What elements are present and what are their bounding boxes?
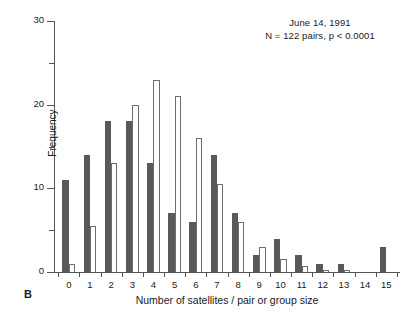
x-axis-title: Number of satellites / pair or group siz… [54,294,400,306]
x-tick-label-15: 15 [374,279,398,290]
x-tick-0 [58,272,59,277]
bar-expected-9 [259,247,265,272]
bar-expected-12 [323,270,329,273]
y-tick-label-0: 0 [18,265,44,276]
x-tick-4 [143,272,144,277]
x-tick-14 [355,272,356,277]
bar-expected-11 [302,266,308,272]
y-tick-15 [49,147,55,148]
figure-panel-b: June 14, 1991 N = 122 pairs, p < 0.0001 … [0,0,419,319]
x-tick-12 [312,272,313,277]
panel-label: B [24,288,32,300]
x-tick-1 [79,272,80,277]
y-tick-10 [47,188,55,189]
bar-expected-2 [111,163,117,272]
bar-expected-10 [280,259,286,272]
plot-area: Frequency 01020300123456789101112131415 [54,21,400,272]
y-tick-20 [47,105,55,106]
x-tick-2 [101,272,102,277]
y-tick-label-20: 20 [18,98,44,109]
x-tick-5 [164,272,165,277]
y-axis-title: Frequency [47,109,58,156]
x-tick-minor-15 [397,272,398,277]
x-tick-8 [228,272,229,277]
bar-observed-0 [62,180,68,272]
x-tick-6 [185,272,186,277]
bar-observed-15 [380,247,386,272]
bar-expected-8 [238,222,244,272]
y-tick-label-30: 30 [18,14,44,25]
y-tick-30 [47,21,55,22]
bar-expected-6 [196,138,202,272]
bar-expected-7 [217,184,223,272]
x-tick-3 [122,272,123,277]
y-tick-label-10: 10 [18,181,44,192]
bar-expected-4 [153,80,159,272]
bar-expected-13 [344,270,350,272]
x-tick-15 [376,272,377,277]
x-tick-7 [206,272,207,277]
bar-expected-0 [69,264,75,272]
y-tick-0 [47,272,55,273]
bar-expected-5 [175,96,181,272]
bar-expected-3 [132,105,138,272]
x-tick-9 [249,272,250,277]
y-tick-25 [49,63,55,64]
x-tick-13 [333,272,334,277]
bar-expected-1 [90,226,96,272]
x-tick-11 [291,272,292,277]
x-tick-10 [270,272,271,277]
y-tick-5 [49,230,55,231]
